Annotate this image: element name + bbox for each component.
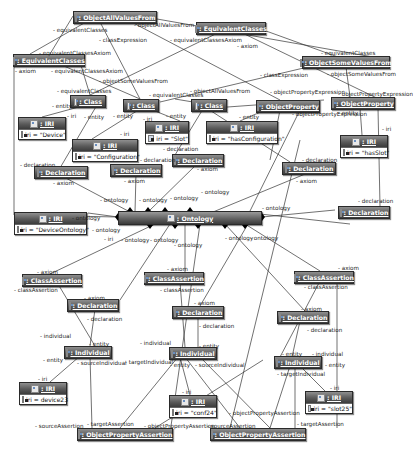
attribute-icon xyxy=(75,153,77,160)
edge-label: - declaration xyxy=(307,327,342,333)
edge-label: - ontology xyxy=(92,227,120,233)
edge-label: - ontology xyxy=(262,205,290,211)
node-individual[interactable]: : Individual xyxy=(64,346,112,359)
edge-label: - ontology xyxy=(250,235,278,241)
node-object-property[interactable]: : ObjectProperty xyxy=(331,97,395,110)
attribute-icon xyxy=(308,405,311,412)
class-icon xyxy=(294,274,296,282)
edge-label: - objectPropertyExpression xyxy=(270,89,345,95)
edge-label: - declaration xyxy=(20,162,55,168)
class-icon xyxy=(285,165,287,173)
edge-label: - declaration xyxy=(87,316,122,322)
node-equivalent-classes[interactable]: : EquivalentClasses xyxy=(196,22,266,35)
class-icon xyxy=(127,102,130,110)
node-class-assertion[interactable]: : ClassAssertion xyxy=(22,274,82,287)
edge-label: - ontology xyxy=(100,197,128,203)
class-icon xyxy=(171,350,173,358)
edge-label: - classAssertion xyxy=(160,287,204,293)
class-icon xyxy=(155,124,163,132)
node-iri-has-configuration[interactable]: : IRI iri = "hasConfiguration" xyxy=(206,121,278,144)
class-icon xyxy=(69,302,71,310)
attribute-icon xyxy=(22,396,24,403)
class-icon xyxy=(93,142,101,150)
class-icon xyxy=(181,398,189,406)
class-icon xyxy=(332,100,334,108)
edge-line xyxy=(260,214,350,224)
node-iri-has-slot[interactable]: : IRI iri = "hasSlot" xyxy=(340,135,388,158)
class-icon xyxy=(300,59,302,67)
node-iri-configuration[interactable]: : IRI iri = "Configuration" xyxy=(72,139,138,162)
node-declaration[interactable]: : Declaration xyxy=(338,206,390,219)
class-icon xyxy=(195,25,197,33)
edge-label: - iri xyxy=(330,385,339,391)
edge-label: - equivalentClasses xyxy=(53,27,107,33)
edge-line xyxy=(90,356,92,428)
class-icon xyxy=(276,359,278,367)
edge-label: - ontology xyxy=(170,195,198,201)
class-icon xyxy=(78,431,80,439)
node-declaration[interactable]: : Declaration xyxy=(277,311,329,324)
edge-label: - ontology xyxy=(72,215,100,221)
edge-label: - individual xyxy=(312,351,343,357)
class-icon xyxy=(112,167,114,175)
edge-label: - iri xyxy=(382,126,391,132)
edge-label: - axiom xyxy=(197,166,218,172)
edge-label: - ontology xyxy=(201,189,229,195)
node-declaration[interactable]: : Declaration xyxy=(282,162,336,175)
edge-label: - declaration xyxy=(358,198,393,204)
edge-label: - axiom xyxy=(15,68,36,74)
class-icon xyxy=(211,431,213,439)
edge-label: - targetIndividual xyxy=(277,371,325,377)
attribute-icon xyxy=(209,135,211,142)
node-declaration[interactable]: : Declaration xyxy=(110,164,162,177)
class-icon xyxy=(174,309,176,317)
node-object-property-assertion[interactable]: : ObjectPropertyAssertion xyxy=(77,428,173,441)
edge-label: - axiom xyxy=(237,43,258,49)
edge-label: - equivalentClasses xyxy=(149,92,203,98)
edge-label: - entity xyxy=(239,114,259,120)
attribute-icon xyxy=(21,131,23,138)
edge-label: - entity xyxy=(84,114,104,120)
edge-label: - equivalentClasses xyxy=(57,88,111,94)
class-icon xyxy=(257,103,259,111)
edge-label: - equivalentClasses xyxy=(321,50,375,56)
node-iri-slot25[interactable]: : IRI iri = "slot25" xyxy=(305,391,353,414)
edge-label: - classExpression xyxy=(99,37,147,43)
class-icon xyxy=(195,102,198,110)
edge-label: - iri xyxy=(143,116,152,122)
node-object-some-values-from[interactable]: : ObjectSomeValuesFrom xyxy=(302,56,390,69)
edge-label: - ontology xyxy=(121,237,149,243)
node-iri-device23[interactable]: : IRI iri = device23 xyxy=(19,382,67,405)
edge-line xyxy=(230,140,300,428)
edge-label: - equivalentClassesAxiom xyxy=(39,50,111,56)
attribute-icon xyxy=(17,226,19,233)
edge-label: - axiom xyxy=(167,266,188,272)
node-iri-conf24[interactable]: : IRI iri = "conf24" xyxy=(169,395,217,418)
class-icon xyxy=(74,98,77,106)
node-iri-slot[interactable]: : IRI iri = "Slot" xyxy=(145,121,189,144)
node-class[interactable]: : Class xyxy=(123,99,159,112)
node-class-assertion[interactable]: : ClassAssertion xyxy=(294,271,354,284)
edge-label: - targetAssertion xyxy=(297,421,344,427)
class-icon xyxy=(279,314,281,322)
node-class-assertion[interactable]: : ClassAssertion xyxy=(144,272,204,285)
node-individual[interactable]: : Individual xyxy=(274,356,322,369)
class-icon xyxy=(31,385,39,393)
edge-label: - targetAssertion xyxy=(87,421,134,427)
node-iri-device[interactable]: : IRI iri = "Device" xyxy=(18,117,66,140)
edge-label: - axiom xyxy=(338,265,359,271)
node-declaration[interactable]: : Declaration xyxy=(172,306,224,319)
edge-label: - objectPropertyExpression xyxy=(338,91,413,97)
edge-label: - ontology xyxy=(225,235,253,241)
node-class[interactable]: : Class xyxy=(70,95,106,108)
node-class[interactable]: : Class xyxy=(191,99,227,112)
class-icon xyxy=(230,124,238,132)
class-icon xyxy=(167,214,175,222)
edge-label: - sourceAssertion xyxy=(35,423,83,429)
edge-label: - classAssertion xyxy=(14,287,58,293)
edge-label: - iri xyxy=(120,131,129,137)
node-object-property-assertion[interactable]: : ObjectPropertyAssertion xyxy=(210,428,306,441)
edge-label: - objectPropertyAssertion xyxy=(229,410,300,416)
node-ontology[interactable]: : Ontology xyxy=(118,211,262,225)
